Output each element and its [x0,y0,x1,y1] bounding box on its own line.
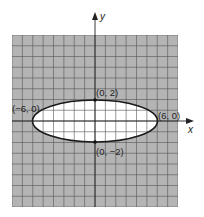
label-bottom: (0, −2) [96,146,124,157]
point-bottom [93,140,97,144]
ellipse-graph: y x (0, 2) (0, −2) (−6, 0) (6, 0) [0,0,204,217]
label-top: (0, 2) [96,87,118,98]
y-axis-label: y [99,11,106,22]
point-top [93,98,97,102]
x-axis-label: x [187,124,194,135]
label-right: (6, 0) [158,110,180,121]
y-axis-arrow-icon [92,12,98,20]
label-left: (−6, 0) [12,103,40,114]
